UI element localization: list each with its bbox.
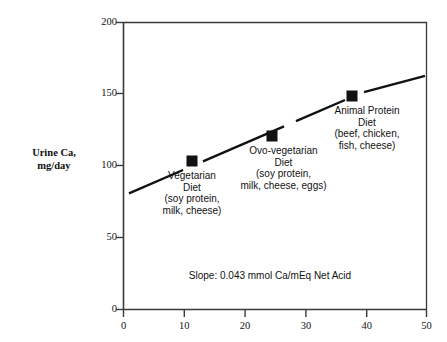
x-tick-label-30: 30 [293,320,319,331]
y-tick-label-50: 50 [91,231,117,242]
data-point-label-animal-protein: Animal Protein Diet (beef, chicken, fish… [312,105,422,151]
y-tick-label-100: 100 [91,159,117,170]
data-point-marker [347,91,358,102]
slope-annotation: Slope: 0.043 mmol Ca/mEq Net Acid [150,270,390,281]
y-tick-label-200: 200 [91,16,117,27]
x-tick-label-40: 40 [354,320,380,331]
chart-figure: Urine Ca, mg/day [0,0,447,342]
x-tick-label-50: 50 [414,320,440,331]
x-tick-label-20: 20 [232,320,258,331]
y-tick-label-0: 0 [91,303,117,314]
x-tick-label-0: 0 [111,320,137,331]
x-tick-label-10: 10 [171,320,197,331]
x-axis-ticks [124,310,427,317]
data-point-marker [187,156,198,167]
data-point-marker [267,131,278,142]
y-axis-ticks [116,23,123,310]
y-tick-label-150: 150 [91,87,117,98]
data-point-label-ovo-vegetarian: Ovo-vegetarian Diet (soy protein, milk, … [221,145,346,191]
